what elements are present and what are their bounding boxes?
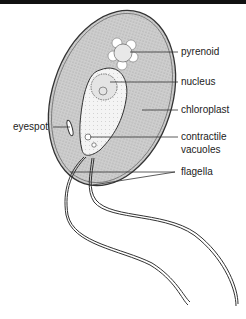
contractile-vacuole <box>92 143 96 147</box>
label-flagella: flagella <box>181 166 213 177</box>
label-eyespot: eyespot <box>13 121 48 132</box>
label-pyrenoid: pyrenoid <box>181 46 219 57</box>
label-nucleus: nucleus <box>181 76 215 87</box>
flagella <box>65 157 238 306</box>
label-vacuoles: vacuoles <box>181 144 220 155</box>
label-chloroplast: chloroplast <box>181 104 229 115</box>
label-contractile: contractile <box>181 131 227 142</box>
